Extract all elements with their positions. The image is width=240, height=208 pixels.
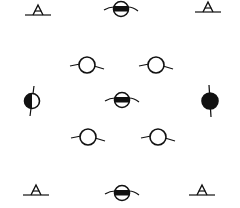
half-filled-circle-icon	[25, 86, 40, 116]
symmetry-diagram	[0, 0, 240, 208]
triangle-on-line-icon	[195, 2, 221, 12]
open-circle-icon	[141, 129, 175, 145]
banded-circle-icon	[104, 2, 138, 17]
triangle-on-line-icon	[25, 5, 51, 15]
open-circle-icon	[139, 57, 173, 73]
open-circle-icon	[71, 129, 105, 145]
diagram-canvas	[0, 0, 240, 208]
triangle-on-line-icon	[23, 185, 49, 195]
banded-circle-icon	[105, 93, 139, 108]
filled-circle-icon	[202, 85, 218, 117]
banded-circle-icon	[105, 186, 139, 201]
triangle-on-line-icon	[189, 185, 215, 195]
open-circle-icon	[70, 57, 104, 73]
